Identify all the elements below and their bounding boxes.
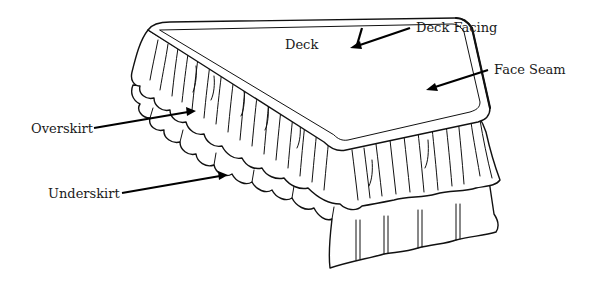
underskirt-arrow (122, 171, 228, 193)
bed-skirt-diagram: Deck Deck Facing Face Seam Overskirt Und… (0, 0, 591, 283)
face-seam-label: Face Seam (494, 63, 566, 76)
deck-label: Deck (285, 38, 318, 51)
underskirt-label: Underskirt (48, 187, 120, 200)
deck-facing-label: Deck Facing (416, 21, 497, 34)
overskirt-label: Overskirt (31, 122, 93, 135)
